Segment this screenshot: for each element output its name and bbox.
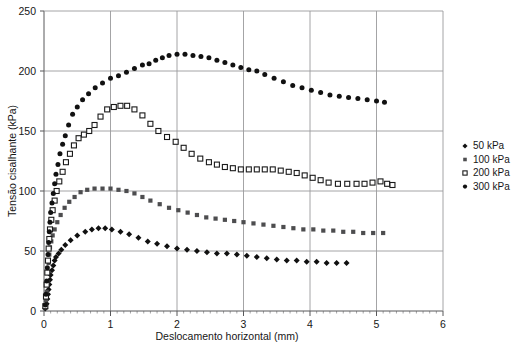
data-point [214,58,219,63]
data-point [301,227,305,231]
data-point [189,151,194,156]
x-tick-label: 5 [374,318,380,330]
data-point [158,202,162,206]
data-point [334,260,340,266]
data-point [262,167,267,172]
data-point [318,90,323,95]
data-point [48,210,53,215]
data-point [222,165,227,170]
legend-item-200-kpa[interactable]: 200 kPa [463,167,510,178]
data-point [63,206,67,210]
data-point [108,76,113,81]
y-tick-label: 200 [18,65,36,77]
data-point [124,70,129,75]
legend-marker-icon [463,171,467,175]
data-point [55,162,60,167]
data-point [147,61,152,66]
data-point [241,220,245,224]
legend-item-300-kpa[interactable]: 300 kPa [463,181,510,192]
data-point [167,206,171,210]
data-point [385,181,390,186]
data-point [67,151,72,156]
data-point [294,171,299,176]
legend-marker-icon [463,184,467,188]
legend-item-label: 300 kPa [473,181,510,192]
data-point [362,181,367,186]
data-point [232,219,236,223]
data-point [98,114,103,119]
data-point [244,253,250,259]
x-tick-label: 6 [440,318,446,330]
data-point [206,55,211,60]
data-point [45,265,50,270]
data-point [309,88,314,93]
data-point [52,181,57,186]
data-point [195,213,199,217]
data-point [47,220,52,225]
data-point [270,167,275,172]
data-point [148,199,152,203]
data-point [230,63,235,68]
data-point [281,225,285,229]
data-point [132,191,136,195]
data-point [57,151,62,156]
data-point [264,255,270,261]
data-point [63,160,68,165]
data-series-group [42,52,395,312]
data-point [371,231,375,235]
data-point [304,259,310,265]
data-point [76,136,81,141]
data-point [92,187,96,191]
data-point [43,292,48,297]
data-point [154,241,160,247]
data-point [310,175,315,180]
data-point [117,229,123,235]
data-point [272,76,277,81]
data-point [70,112,75,117]
data-point [314,259,320,265]
data-point [153,58,158,63]
data-point [126,231,132,237]
data-point [222,60,227,65]
data-point [160,55,165,60]
data-point [66,123,71,128]
data-point [204,249,210,255]
data-point [92,123,97,128]
data-point [96,225,102,231]
data-point [374,99,379,104]
data-point [214,162,219,167]
data-point [89,226,95,232]
data-point [262,72,267,77]
legend-item-50-kpa[interactable]: 50 kPa [462,140,504,151]
data-point [118,103,123,108]
data-point [370,180,375,185]
x-tick-label: 4 [307,318,313,330]
data-point [75,105,80,110]
data-point [85,188,89,192]
data-point [67,200,71,204]
data-point [274,256,280,262]
data-point [184,247,190,253]
data-point [135,235,141,241]
data-point [346,95,351,100]
data-point [60,142,65,147]
data-point [164,243,170,249]
x-tick-label: 2 [174,318,180,330]
y-tick-label: 50 [24,245,36,257]
data-point [50,262,56,268]
data-point [254,69,259,74]
data-point [167,53,172,58]
data-point [81,132,86,137]
data-point [351,230,355,234]
data-point [55,220,59,224]
data-point [72,195,76,199]
legend-marker-icon [463,158,467,162]
data-point [87,129,92,134]
data-point [105,107,110,112]
legend-item-100-kpa[interactable]: 100 kPa [463,154,510,165]
data-point [102,225,108,231]
data-point [345,181,350,186]
data-point [198,54,203,59]
data-point [173,139,178,144]
data-point [337,94,342,99]
